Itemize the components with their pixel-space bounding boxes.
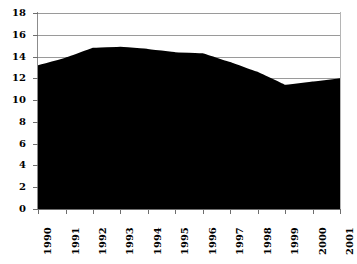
- y-tick-10: [33, 100, 38, 101]
- x-tick-1998: [258, 209, 259, 214]
- plot-area: [38, 13, 340, 209]
- y-axis-label-16: 16: [12, 30, 26, 40]
- y-tick-12: [33, 78, 38, 79]
- y-tick-6: [33, 144, 38, 145]
- x-tick-1990: [38, 209, 39, 214]
- area-chart: 18 16 14 12 10 8 6 4 2 0 1990 1991 1992 …: [0, 0, 357, 264]
- x-axis-label-1999: 1999: [290, 227, 300, 255]
- x-tick-1996: [203, 209, 204, 214]
- x-axis-label-1996: 1996: [208, 227, 218, 255]
- y-axis-label-8: 8: [19, 117, 26, 127]
- y-tick-18: [33, 13, 38, 14]
- x-tick-1993: [120, 209, 121, 214]
- x-axis-label-1990: 1990: [43, 227, 53, 255]
- x-tick-1991: [66, 209, 67, 214]
- y-tick-16: [33, 35, 38, 36]
- x-tick-2000: [313, 209, 314, 214]
- x-axis-label-1997: 1997: [235, 227, 245, 255]
- y-tick-4: [33, 165, 38, 166]
- x-tick-1992: [93, 209, 94, 214]
- x-axis-label-1998: 1998: [263, 227, 273, 255]
- x-tick-1999: [285, 209, 286, 214]
- y-axis-label-0: 0: [19, 204, 26, 214]
- y-axis-label-4: 4: [19, 160, 26, 170]
- y-tick-2: [33, 187, 38, 188]
- x-axis-label-1991: 1991: [71, 227, 81, 255]
- x-axis-label-2001: 2001: [345, 227, 355, 255]
- plot-right-border: [340, 12, 341, 210]
- y-axis-label-12: 12: [12, 73, 26, 83]
- y-axis-label-6: 6: [19, 139, 26, 149]
- y-axis-label-18: 18: [12, 8, 26, 18]
- x-axis-label-1992: 1992: [98, 227, 108, 255]
- x-tick-1994: [148, 209, 149, 214]
- x-axis-label-1995: 1995: [180, 227, 190, 255]
- x-axis-label-1994: 1994: [153, 227, 163, 255]
- y-tick-14: [33, 57, 38, 58]
- x-axis-label-1993: 1993: [125, 227, 135, 255]
- y-axis-line: [37, 12, 38, 210]
- x-tick-1997: [230, 209, 231, 214]
- y-tick-8: [33, 122, 38, 123]
- x-tick-1995: [175, 209, 176, 214]
- y-axis-label-10: 10: [12, 95, 26, 105]
- area-series-path: [38, 13, 340, 209]
- y-axis-label-14: 14: [12, 52, 26, 62]
- y-axis-label-2: 2: [19, 182, 26, 192]
- x-tick-2001: [340, 209, 341, 214]
- x-axis-line: [37, 209, 341, 210]
- x-axis-label-2000: 2000: [318, 227, 328, 255]
